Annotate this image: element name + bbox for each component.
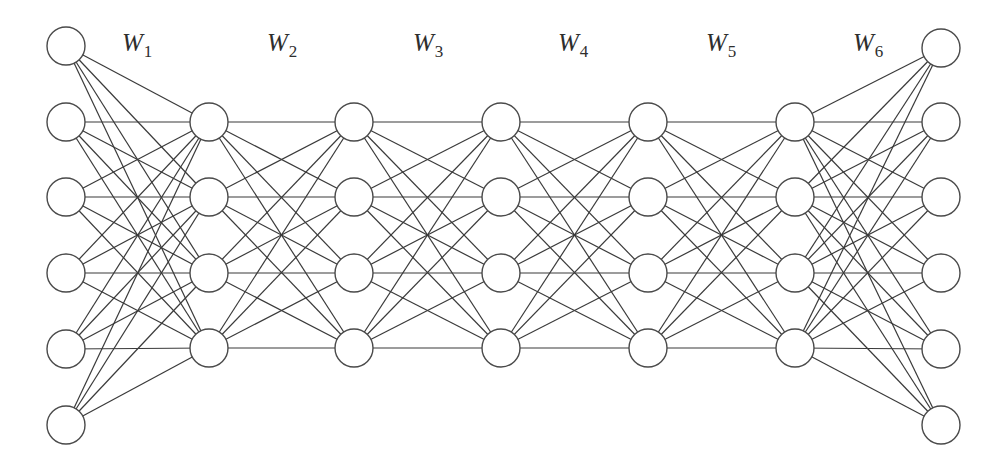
hidden-2-node-2 bbox=[335, 178, 373, 216]
hidden-1-node-3 bbox=[190, 254, 228, 292]
hidden-2-node-1 bbox=[335, 103, 373, 141]
hidden-4-node-1 bbox=[629, 103, 667, 141]
output-node-2 bbox=[922, 103, 960, 141]
input-node-5 bbox=[47, 330, 85, 368]
weight-symbol: W bbox=[558, 29, 579, 56]
weight-label-w3: W3 bbox=[413, 30, 443, 55]
weight-label-w2: W2 bbox=[267, 30, 297, 55]
neural-network-diagram bbox=[0, 0, 1004, 470]
hidden-5-node-2 bbox=[776, 178, 814, 216]
edge-l6-4-to-5 bbox=[795, 348, 941, 349]
weight-subscript: 5 bbox=[728, 42, 737, 61]
weight-subscript: 1 bbox=[144, 42, 153, 61]
input-node-1 bbox=[47, 27, 85, 65]
edge-l1-6-to-4 bbox=[66, 348, 209, 425]
hidden-2-node-4 bbox=[335, 329, 373, 367]
weight-symbol: W bbox=[853, 29, 874, 56]
hidden-3-node-1 bbox=[482, 103, 520, 141]
hidden-1-node-1 bbox=[190, 103, 228, 141]
hidden-4-node-4 bbox=[629, 329, 667, 367]
hidden-3-node-4 bbox=[482, 329, 520, 367]
hidden-3-node-2 bbox=[482, 178, 520, 216]
weight-label-w4: W4 bbox=[558, 30, 588, 55]
hidden-1-node-4 bbox=[190, 329, 228, 367]
input-node-4 bbox=[47, 254, 85, 292]
neuron-nodes bbox=[47, 27, 960, 444]
weight-symbol: W bbox=[706, 29, 727, 56]
hidden-4-node-3 bbox=[629, 254, 667, 292]
output-node-6 bbox=[922, 406, 960, 444]
weight-subscript: 2 bbox=[289, 42, 298, 61]
weight-subscript: 6 bbox=[875, 42, 884, 61]
weight-symbol: W bbox=[122, 29, 143, 56]
edge-l6-4-to-1 bbox=[795, 48, 941, 348]
edge-l6-4-to-6 bbox=[795, 348, 941, 425]
output-node-5 bbox=[922, 330, 960, 368]
weight-symbol: W bbox=[267, 29, 288, 56]
hidden-5-node-1 bbox=[776, 103, 814, 141]
output-node-4 bbox=[922, 254, 960, 292]
input-node-6 bbox=[47, 406, 85, 444]
hidden-4-node-2 bbox=[629, 178, 667, 216]
hidden-3-node-3 bbox=[482, 254, 520, 292]
output-node-3 bbox=[922, 178, 960, 216]
hidden-2-node-3 bbox=[335, 254, 373, 292]
weight-symbol: W bbox=[413, 29, 434, 56]
weight-subscript: 3 bbox=[435, 42, 444, 61]
weight-subscript: 4 bbox=[580, 42, 589, 61]
input-node-3 bbox=[47, 178, 85, 216]
weight-label-w5: W5 bbox=[706, 30, 736, 55]
edge-l6-1-to-1 bbox=[795, 48, 941, 122]
weight-label-w6: W6 bbox=[853, 30, 883, 55]
input-node-2 bbox=[47, 103, 85, 141]
edge-l1-1-to-1 bbox=[66, 46, 209, 122]
hidden-5-node-3 bbox=[776, 254, 814, 292]
edge-l6-3-to-1 bbox=[795, 48, 941, 273]
hidden-5-node-4 bbox=[776, 329, 814, 367]
weight-label-w1: W1 bbox=[122, 30, 152, 55]
hidden-1-node-2 bbox=[190, 178, 228, 216]
output-node-1 bbox=[922, 29, 960, 67]
edge-l1-6-to-2 bbox=[66, 197, 209, 425]
